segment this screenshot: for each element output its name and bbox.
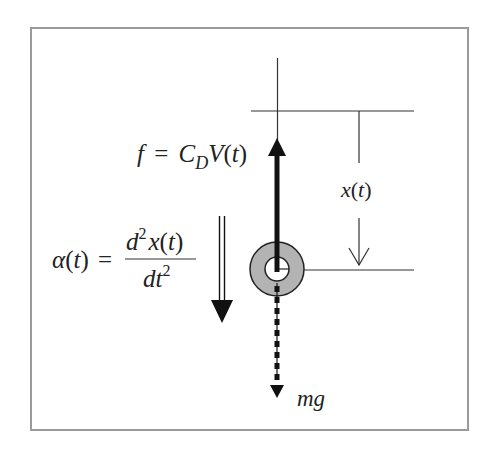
svg-text:α(t) =: α(t) = (52, 246, 112, 274)
acceleration-arrow-icon (211, 216, 233, 323)
gravity-arrow-icon (270, 283, 284, 398)
diagram-frame (31, 28, 468, 430)
svg-text:d2x(t): d2x(t) (126, 225, 183, 256)
free-body-diagram: x(t) mg f = CDV (0, 0, 496, 463)
svg-text:dt2: dt2 (143, 262, 170, 292)
acceleration-equation: α(t) = d2x(t) dt2 (52, 225, 196, 292)
weight-label: mg (297, 386, 325, 411)
drag-force-equation: f = CDV(t) (137, 140, 247, 173)
displacement-label: x(t) (340, 177, 372, 202)
